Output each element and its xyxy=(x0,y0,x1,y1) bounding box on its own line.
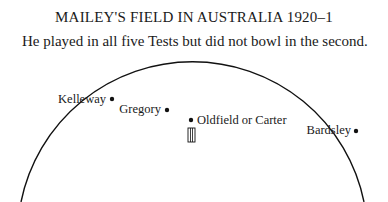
fielder-dot-icon xyxy=(165,108,169,112)
fielder-label: Gregory xyxy=(119,102,161,116)
fielder-gregory: Gregory xyxy=(119,102,169,116)
wicket-icon xyxy=(188,128,195,142)
fielder-dot-icon xyxy=(189,118,193,122)
fielder-dot-icon xyxy=(354,129,358,133)
fielder-bardsley: Bardsley xyxy=(307,123,359,137)
fielder-label: Bardsley xyxy=(307,123,352,137)
fielder-label: Oldfield or Carter xyxy=(197,113,287,127)
field-diagram: Kelleway Gregory Oldfield or Carter Bard… xyxy=(0,0,388,202)
fielder-oldfield: Oldfield or Carter xyxy=(189,113,288,127)
fielder-label: Kelleway xyxy=(58,92,107,106)
fielder-dot-icon xyxy=(110,97,114,101)
fielder-kelleway: Kelleway xyxy=(58,92,114,106)
